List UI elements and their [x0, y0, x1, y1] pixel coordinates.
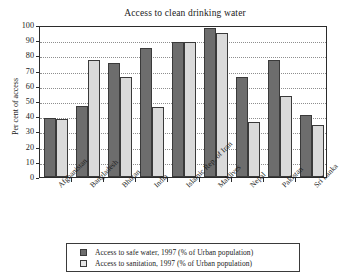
y-tick-label: 100: [4, 22, 34, 30]
bar-sanitation: [184, 42, 196, 177]
bars-layer: [40, 27, 326, 177]
bar-group: [76, 27, 100, 177]
bar-group: [44, 27, 68, 177]
y-tick-label: 20: [4, 144, 34, 152]
bar-sanitation: [312, 125, 324, 177]
bar-sanitation: [56, 119, 68, 177]
y-tick-label: 40: [4, 113, 34, 121]
bar-sanitation: [88, 60, 100, 177]
bar-group: [108, 27, 132, 177]
bar-sanitation: [152, 107, 164, 177]
y-tick-label: 80: [4, 52, 34, 60]
y-tick-label: 70: [4, 68, 34, 76]
bar-group: [300, 27, 324, 177]
legend-label: Access to sanitation, 1997 (% of Urban p…: [95, 259, 252, 268]
bar-safe-water: [172, 42, 184, 177]
bar-safe-water: [268, 60, 280, 177]
y-tick-label: 0: [4, 174, 34, 182]
bar-group: [268, 27, 292, 177]
y-tick-label: 60: [4, 83, 34, 91]
legend-item: Access to sanitation, 1997 (% of Urban p…: [67, 258, 299, 269]
bar-safe-water: [140, 48, 152, 177]
bar-safe-water: [236, 77, 248, 177]
bar-sanitation: [248, 122, 260, 177]
y-tick-label: 10: [4, 159, 34, 167]
legend-swatch-safe-water-icon: [80, 249, 87, 256]
y-axis: 0102030405060708090100: [0, 0, 39, 179]
bar-sanitation: [120, 77, 132, 177]
bar-group: [140, 27, 164, 177]
y-tick-label: 50: [4, 98, 34, 106]
legend-swatch-sanitation-icon: [80, 260, 87, 267]
chart-title: Access to clean drinking water: [40, 8, 330, 18]
bar-safe-water: [44, 118, 56, 177]
bar-group: [172, 27, 196, 177]
y-tick-label: 30: [4, 128, 34, 136]
legend-item: Access to safe water, 1997 (% of Urban p…: [67, 247, 299, 258]
legend-label: Access to safe water, 1997 (% of Urban p…: [95, 248, 253, 257]
x-axis-labels: AfghanistanBangladeshBhutanIndiaIslamic …: [39, 183, 327, 239]
y-tick-label: 90: [4, 37, 34, 45]
bar-sanitation: [280, 96, 292, 177]
bar-group: [236, 27, 260, 177]
chart-legend: Access to safe water, 1997 (% of Urban p…: [66, 243, 300, 272]
